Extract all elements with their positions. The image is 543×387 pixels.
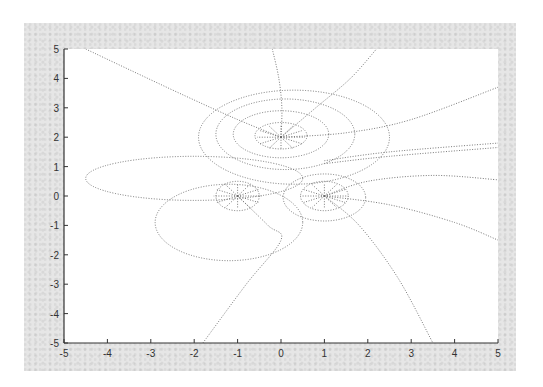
source-spoke — [238, 190, 259, 196]
y-tick-label: -4 — [50, 309, 59, 320]
y-tick-label: 2 — [53, 132, 59, 143]
axes-layer — [64, 49, 498, 343]
y-tick-label: 1 — [53, 162, 59, 173]
source-spoke — [260, 137, 281, 143]
field-line — [324, 147, 498, 163]
x-tick-label: -4 — [103, 348, 112, 359]
source-spoke — [281, 137, 302, 143]
x-tick-label: -5 — [60, 348, 69, 359]
source-spoke — [260, 131, 281, 137]
y-tick-label: 4 — [53, 73, 59, 84]
x-tick-label: 3 — [408, 348, 414, 359]
source-spoke — [304, 190, 325, 196]
field-line — [281, 87, 498, 137]
x-ticks: -5-4-3-2-1012345 — [60, 339, 502, 359]
x-tick-label: 0 — [278, 348, 284, 359]
x-tick-label: 2 — [365, 348, 371, 359]
x-tick-label: 5 — [495, 348, 501, 359]
field-line — [324, 143, 498, 161]
field-line — [324, 175, 498, 196]
field-line — [324, 196, 498, 240]
x-tick-label: -3 — [146, 348, 155, 359]
curves-layer — [86, 49, 498, 343]
source-spoke — [324, 190, 345, 196]
field-line — [203, 196, 282, 343]
x-tick-label: 4 — [452, 348, 458, 359]
source-spoke — [304, 196, 325, 202]
field-line — [86, 49, 281, 137]
field-line — [324, 196, 433, 343]
y-ticks: 543210-1-2-3-4-5 — [50, 44, 68, 349]
field-line — [272, 49, 282, 137]
x-tick-label: -2 — [190, 348, 199, 359]
source-spoke — [217, 190, 238, 196]
source-spoke — [238, 196, 259, 202]
chart-svg: -5-4-3-2-1012345 543210-1-2-3-4-5 — [0, 0, 543, 387]
y-tick-label: -5 — [50, 338, 59, 349]
equipotential-contour — [86, 156, 303, 200]
y-tick-label: -2 — [50, 250, 59, 261]
y-tick-label: 3 — [53, 103, 59, 114]
y-tick-label: 0 — [53, 191, 59, 202]
y-tick-label: 5 — [53, 44, 59, 55]
x-tick-label: 1 — [322, 348, 328, 359]
y-tick-label: -3 — [50, 279, 59, 290]
x-tick-label: -1 — [233, 348, 242, 359]
y-tick-label: -1 — [50, 220, 59, 231]
